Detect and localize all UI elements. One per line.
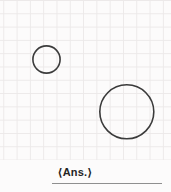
answer-caption: ⟨Ans.⟩ [52, 166, 98, 179]
small-circle [33, 46, 60, 73]
large-circle [100, 85, 154, 139]
circles-canvas [0, 0, 171, 160]
answer-underline [52, 183, 162, 184]
